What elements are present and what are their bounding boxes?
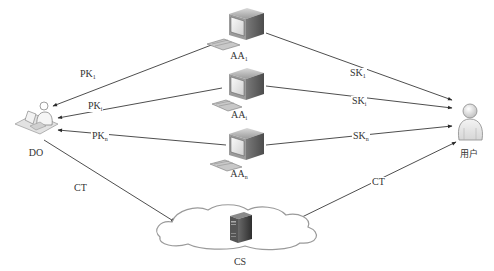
edge-label-ct-cs-user: CT bbox=[371, 177, 386, 187]
diagram-canvas bbox=[0, 0, 494, 271]
node-label-do: DO bbox=[29, 148, 43, 158]
edge-label-skn: SKn bbox=[352, 131, 370, 142]
edge-label-ct-do-cs: CT bbox=[73, 183, 88, 193]
edge-ct-do-cs-line bbox=[44, 140, 175, 222]
edge-pkn-line bbox=[58, 130, 226, 145]
node-label-aan: AAn bbox=[230, 169, 247, 180]
edge-label-pki: PKi bbox=[87, 101, 103, 112]
edge-label-pkn: PKn bbox=[91, 131, 109, 142]
data-owner-icon bbox=[15, 102, 58, 134]
edge-label-ski: SKi bbox=[351, 96, 367, 107]
user-icon bbox=[458, 104, 482, 140]
edge-label-sk1: SK1 bbox=[349, 68, 367, 79]
aai-computer-icon bbox=[212, 68, 264, 111]
aan-computer-icon bbox=[210, 128, 264, 171]
node-label-cs: CS bbox=[234, 257, 246, 267]
node-label-user: 用户 bbox=[460, 150, 478, 159]
sk-edges bbox=[266, 33, 452, 145]
node-label-aa1: AA1 bbox=[230, 51, 247, 62]
node-label-aai: AAi bbox=[231, 110, 247, 121]
server-icon bbox=[230, 212, 252, 243]
pk-edges bbox=[53, 44, 226, 145]
edge-pki-line bbox=[58, 88, 222, 118]
edge-label-pk1: PK1 bbox=[79, 69, 97, 80]
edge-pk1-line bbox=[53, 44, 214, 106]
aa1-computer-icon bbox=[207, 8, 264, 50]
